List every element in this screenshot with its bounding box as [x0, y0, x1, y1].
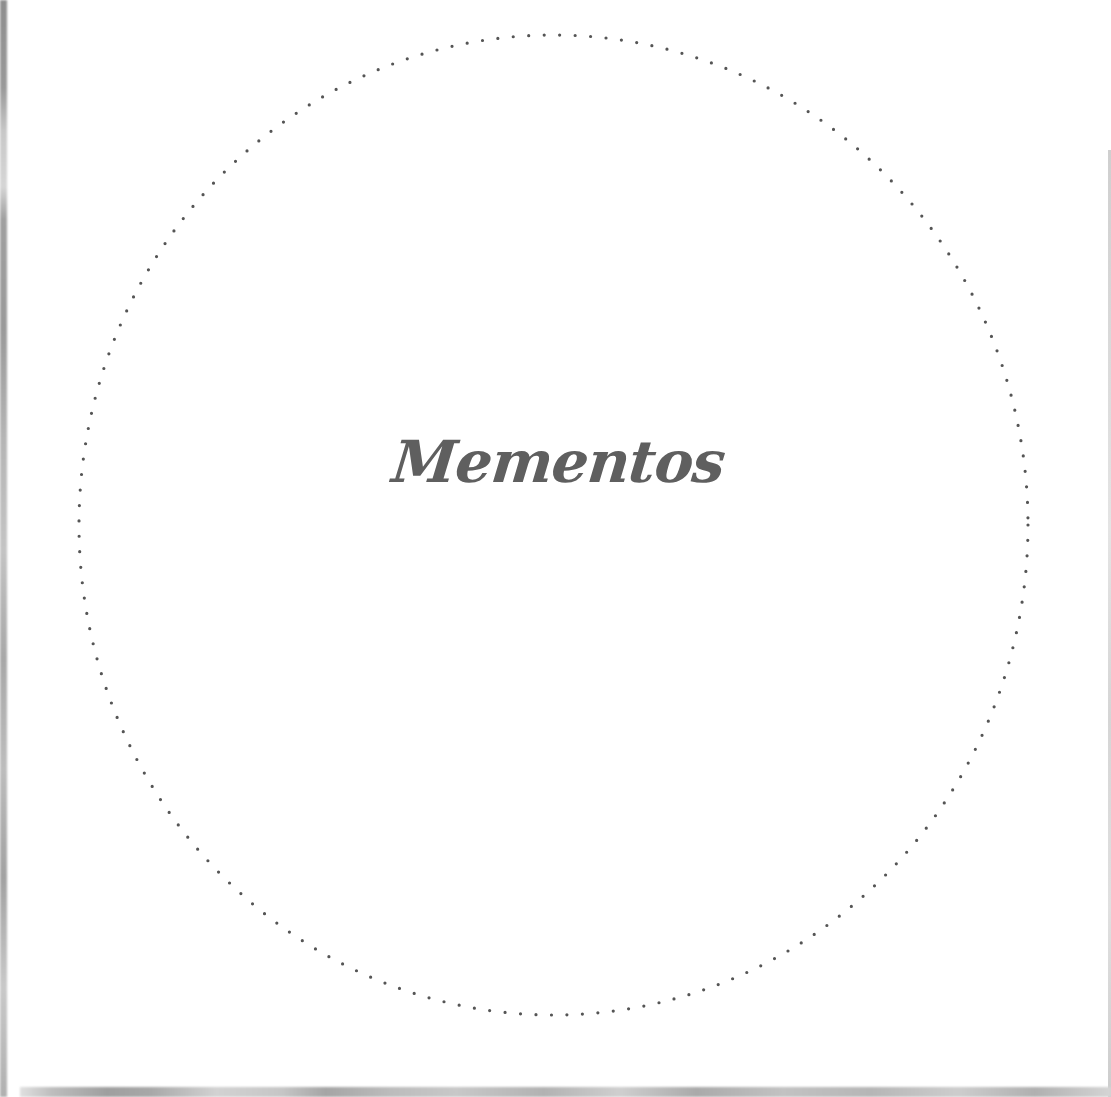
- mementos-card: Mementos: [0, 0, 1111, 1097]
- card-title: Mementos: [0, 428, 1111, 496]
- dotted-circle-border: [0, 0, 1111, 1097]
